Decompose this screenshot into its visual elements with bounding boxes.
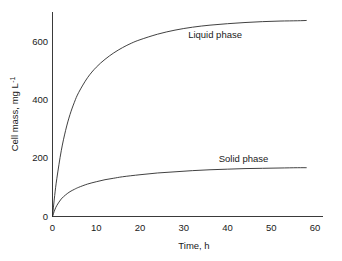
y-tick-label: 0: [43, 211, 48, 222]
x-tick-label: 60: [310, 222, 321, 233]
x-tick-label: 40: [222, 222, 233, 233]
x-axis-title: Time, h: [178, 240, 209, 251]
y-tick-label: 600: [32, 36, 48, 47]
curve-liquid-phase: [53, 20, 307, 216]
series-annotations: Liquid phaseSolid phase: [188, 29, 268, 164]
data-curves: [53, 20, 307, 216]
y-axis-title: Cell mass, mg L-1: [9, 76, 21, 151]
x-tick-label: 50: [266, 222, 277, 233]
x-tick-label: 30: [178, 222, 189, 233]
y-tick-label: 200: [32, 152, 48, 163]
axes: [53, 12, 324, 217]
plot-area: 0102030405060 0200400600 Liquid phaseSol…: [0, 0, 342, 261]
series-label-liquid-phase: Liquid phase: [188, 29, 242, 40]
x-tick-label: 20: [135, 222, 146, 233]
y-tick-label: 400: [32, 94, 48, 105]
curve-solid-phase: [53, 168, 307, 217]
series-label-solid-phase: Solid phase: [219, 153, 269, 164]
x-tick-label: 10: [91, 222, 102, 233]
y-tick-labels: 0200400600: [32, 36, 48, 222]
x-tick-labels: 0102030405060: [50, 222, 320, 233]
chart-figure: 0102030405060 0200400600 Liquid phaseSol…: [0, 0, 342, 261]
x-tick-label: 0: [50, 222, 55, 233]
